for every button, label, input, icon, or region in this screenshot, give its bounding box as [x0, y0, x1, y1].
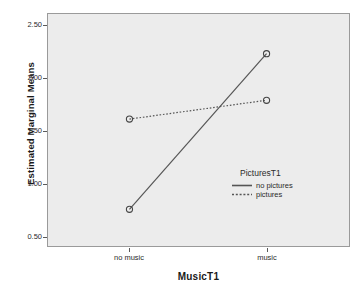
legend: PicturesT1 no pictures pictures [232, 168, 324, 199]
legend-dotted-line-icon [232, 191, 252, 198]
series-line-pictures [129, 100, 266, 119]
legend-title: PicturesT1 [240, 168, 324, 178]
y-tick-label-0.50: 0.50 [16, 233, 42, 241]
plot-area [47, 13, 350, 247]
y-tick-label-2.00: 2.00 [16, 74, 42, 82]
y-axis-tick-labels: 2.50 2.00 1.50 1.00 0.50 [14, 0, 42, 289]
y-tick-label-1.50: 1.50 [16, 127, 42, 135]
legend-solid-line-icon [232, 182, 252, 189]
x-axis-title: MusicT1 [47, 271, 350, 282]
x-tick-label-music: music [222, 254, 312, 262]
legend-label-pictures: pictures [256, 191, 282, 199]
y-tick-label-1.00: 1.00 [16, 180, 42, 188]
x-tick-mark-music [267, 248, 268, 252]
estimated-marginal-means-chart: Estimated Marginal Means 2.50 2.00 1.50 … [0, 0, 361, 289]
x-tick-label-no-music: no music [84, 254, 174, 262]
x-tick-mark-no-music [129, 248, 130, 252]
plot-series-svg [48, 14, 349, 246]
legend-label-no-pictures: no pictures [256, 182, 293, 190]
legend-item-no-pictures: no pictures [232, 182, 324, 190]
y-tick-label-2.50: 2.50 [16, 21, 42, 29]
data-point-pictures-no-music [126, 116, 132, 122]
legend-item-pictures: pictures [232, 191, 324, 199]
